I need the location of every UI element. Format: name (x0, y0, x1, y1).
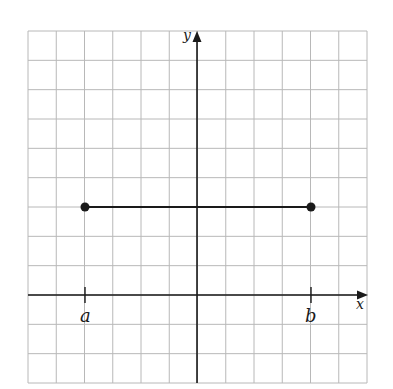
right-endpoint-dot (307, 203, 316, 212)
coordinate-plane: x y a b (0, 0, 393, 389)
x-axis-label: x (356, 296, 364, 312)
label-b: b (305, 305, 317, 326)
y-axis-label: y (182, 27, 192, 43)
left-endpoint-dot (81, 203, 90, 212)
label-a: a (80, 305, 91, 326)
y-axis-arrow-icon (193, 31, 202, 42)
